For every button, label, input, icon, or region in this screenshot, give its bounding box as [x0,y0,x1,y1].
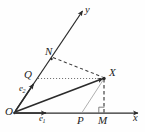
x-axis-label: x [133,113,138,124]
point-label-M: M [98,115,107,126]
point-label-N: N [45,46,52,57]
point-label-P: P [77,115,84,126]
basis-vector-label-e2: e2 [19,84,26,94]
basis-vector-e1-subscript: 1 [43,118,46,124]
figure-canvas [0,0,145,132]
point-label-X: X [109,67,116,78]
segment-N-X [53,58,103,78]
point-label-Q: Q [24,69,32,80]
point-dot-O [13,112,16,115]
vector-OX [15,79,103,113]
point-dot-N [50,58,52,60]
point-dot-X [102,77,105,80]
basis-vector-e2-subscript: 2 [23,88,26,94]
point-label-O: O [5,106,13,117]
y-axis-label: y [85,5,90,16]
geometry-figure: O N Q X P M y x e1 e2 [0,0,145,132]
basis-vector-label-e1: e1 [39,114,46,124]
